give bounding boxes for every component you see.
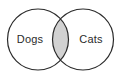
set-label-left: Dogs (17, 33, 44, 45)
venn-diagram-canvas: Dogs Cats (0, 0, 121, 78)
venn-diagram-figure: Dogs Cats (0, 0, 121, 78)
set-label-right: Cats (79, 33, 103, 45)
